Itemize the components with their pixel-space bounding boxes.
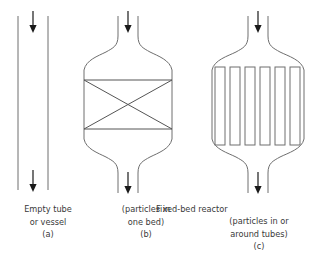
panel-b-inlet-arrow (124, 11, 131, 33)
figure-root: Fixed-bed reactor Empty tube or vessel (… (0, 0, 314, 258)
panel-a-vessel (18, 16, 48, 190)
panel-c-inlet-arrow (254, 11, 261, 33)
down-arrow-icon-head (124, 25, 131, 33)
tube-5 (275, 67, 285, 145)
vessel-right-outline (268, 16, 304, 193)
tube-4 (260, 67, 270, 145)
vessel-right-outline (138, 16, 172, 193)
tube-1 (215, 67, 225, 145)
caption-panel-a: Empty tube or vessel (a) (0, 203, 96, 241)
tube-2 (230, 67, 240, 145)
caption-panel-c: (particles in or around tubes) (c) (204, 215, 314, 253)
vessel-left-outline (84, 16, 118, 193)
down-arrow-icon-head (254, 25, 261, 33)
panel-a-outlet-arrow (29, 170, 36, 192)
caption-a-line1: Empty tube (0, 203, 96, 216)
caption-b-line2: one bed) (98, 216, 194, 229)
down-arrow-icon-head (124, 186, 131, 194)
panel-c-outlet-arrow (254, 172, 261, 194)
down-arrow-icon-head (29, 25, 36, 33)
caption-c-line1: (particles in or (204, 215, 314, 228)
caption-a-letter: (a) (0, 228, 96, 241)
caption-c-letter: (c) (204, 240, 314, 253)
caption-a-line2: or vessel (0, 216, 96, 229)
caption-panel-b: (particles in one bed) (b) (98, 203, 194, 241)
down-arrow-icon-head (29, 184, 36, 192)
tube-3 (245, 67, 255, 145)
caption-b-letter: (b) (98, 228, 194, 241)
panel-c-tube-bundle (215, 67, 300, 145)
caption-c-line2: around tubes) (204, 228, 314, 241)
panel-b-bed (84, 80, 172, 129)
panel-a-inlet-arrow (29, 11, 36, 33)
caption-b-line1: (particles in (98, 203, 194, 216)
panel-b-outlet-arrow (124, 172, 131, 194)
down-arrow-icon-head (254, 186, 261, 194)
tube-6 (290, 67, 300, 145)
